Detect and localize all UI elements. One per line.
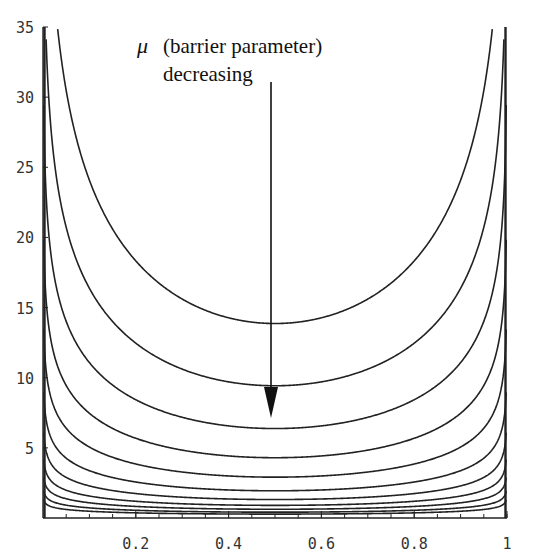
x-tick-label: 1 [502, 535, 511, 553]
barrier-curve [44, 330, 506, 478]
y-tick-label: 20 [16, 229, 34, 247]
y-tick-label: 15 [16, 300, 34, 318]
x-tick-label: 0.2 [122, 535, 149, 553]
annotation-line2: decreasing [163, 62, 253, 86]
x-tick-label: 0.6 [308, 535, 335, 553]
barrier-curve [44, 433, 506, 500]
curves-group [44, 27, 506, 518]
barrier-curve [44, 105, 506, 428]
barrier-function-chart: 0.20.40.60.81 5101520253035 μ (barrier p… [0, 0, 540, 560]
barrier-curve [58, 29, 493, 323]
x-tick-label: 0.4 [215, 535, 242, 553]
axes-group [43, 27, 507, 518]
annotation-line1: (barrier parameter) [163, 34, 322, 58]
x-tick-label: 0.8 [401, 535, 428, 553]
y-tick-label: 30 [16, 89, 34, 107]
barrier-curve [44, 392, 506, 490]
y-tick-label: 5 [25, 440, 34, 458]
y-tick-label: 25 [16, 159, 34, 177]
barrier-curve [46, 39, 504, 385]
y-tick-label: 10 [16, 370, 34, 388]
annotation-mu-symbol: μ [136, 33, 148, 58]
decreasing-arrow-head-icon [264, 387, 278, 418]
barrier-curve [44, 240, 506, 458]
barrier-curve [44, 478, 506, 510]
barrier-curve [44, 460, 506, 506]
y-tick-label: 35 [16, 19, 34, 37]
